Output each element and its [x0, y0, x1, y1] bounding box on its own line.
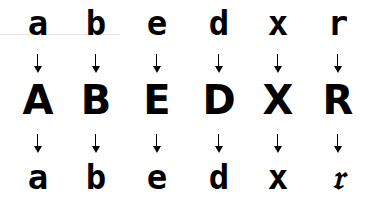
glyph-mid-B: B	[71, 80, 121, 120]
glyph-bot-d: d	[194, 160, 244, 194]
row-uppercase: A B E D X R	[0, 80, 371, 120]
glyph-mid-R: R	[313, 80, 363, 120]
down-arrow-icon	[333, 134, 343, 153]
glyph-mid-A: A	[13, 80, 63, 120]
down-arrow-icon	[91, 54, 101, 73]
down-arrow-icon	[214, 54, 224, 73]
glyph-top-e: e	[132, 6, 182, 40]
row-lowercase-input: a b e d x r	[0, 6, 371, 46]
glyph-top-r: r	[313, 6, 363, 40]
down-arrow-icon	[33, 54, 43, 73]
glyph-top-d: d	[194, 6, 244, 40]
glyph-bot-r-fraktur: 𝔯	[313, 160, 363, 194]
glyph-mid-D: D	[194, 80, 244, 120]
glyph-bot-e: e	[132, 160, 182, 194]
glyph-bot-x: x	[253, 160, 303, 194]
glyph-mid-X: X	[253, 80, 303, 120]
down-arrow-icon	[33, 134, 43, 153]
row-lowercase-output: a b e d x 𝔯	[0, 160, 371, 200]
glyph-top-x: x	[253, 6, 303, 40]
glyph-top-b: b	[71, 6, 121, 40]
glyph-bot-b: b	[71, 160, 121, 194]
down-arrow-icon	[333, 54, 343, 73]
down-arrow-icon	[273, 54, 283, 73]
down-arrow-icon	[91, 134, 101, 153]
glyph-top-a: a	[13, 6, 63, 40]
down-arrow-icon	[152, 134, 162, 153]
down-arrow-icon	[152, 54, 162, 73]
down-arrow-icon	[273, 134, 283, 153]
down-arrow-icon	[214, 134, 224, 153]
glyph-bot-a: a	[13, 160, 63, 194]
glyph-mid-E: E	[132, 80, 182, 120]
